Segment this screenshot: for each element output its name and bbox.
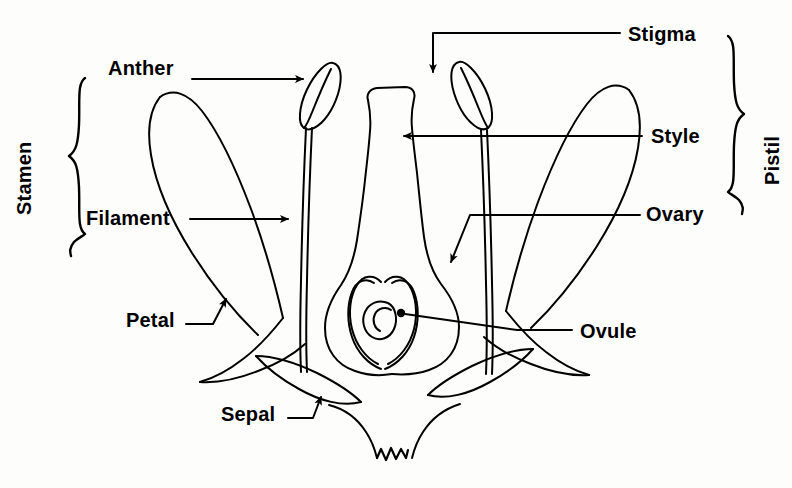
flower-diagram-figure: Stamen Pistil Anther Filament Petal Sepa… [0,0,792,488]
sepal-left [256,356,361,404]
stamen-brace [69,78,85,256]
part-label-ovule: Ovule [580,321,637,341]
group-label-stamen: Stamen [14,142,34,215]
petal-right [506,86,640,328]
petal-left-inner [200,318,305,382]
stamen-right [481,130,493,374]
leader-ovule [405,314,572,330]
leader-stigma [433,33,620,72]
anther-left [300,63,341,130]
part-label-stigma: Stigma [628,24,696,44]
pistil-brace [728,36,744,214]
part-label-style: Style [651,126,700,146]
receptacle-and-stalk [329,404,460,460]
sepal-right [428,349,533,397]
ovary-inner-chamber [348,277,418,369]
part-label-ovary: Ovary [646,204,704,224]
leader-petal [186,299,226,324]
petal-right-inner [484,311,589,375]
part-label-anther: Anther [108,58,174,78]
stamen-left [300,128,312,372]
part-label-sepal: Sepal [221,404,275,424]
part-label-filament: Filament [86,208,170,228]
group-label-pistil: Pistil [762,136,782,185]
part-label-petal: Petal [126,310,175,330]
anther-right [451,62,492,130]
leader-sepal [288,397,321,418]
